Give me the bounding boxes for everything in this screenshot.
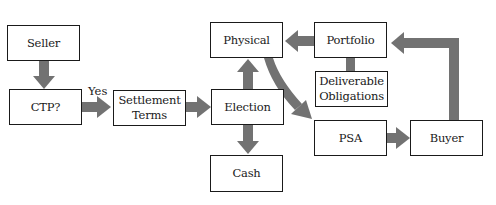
arrow-election-to-physical	[237, 59, 259, 89]
arrow-portfolio-to-physical	[285, 30, 314, 52]
node-seller-label: Seller	[27, 36, 60, 51]
node-buyer-label: Buyer	[430, 131, 464, 146]
flow-diagram: Seller CTP? Yes Settlement Terms Physica…	[0, 0, 496, 205]
edge-label-yes: Yes	[88, 84, 107, 98]
connector-portfolio-deliverable	[346, 58, 355, 71]
node-settlement-terms-label: Settlement Terms	[118, 93, 180, 123]
node-settlement-terms: Settlement Terms	[113, 90, 186, 126]
node-portfolio: Portfolio	[314, 22, 387, 58]
node-cash-label: Cash	[232, 166, 260, 181]
node-physical-label: Physical	[223, 33, 270, 48]
node-ctp: CTP?	[9, 89, 82, 125]
node-portfolio-label: Portfolio	[327, 33, 375, 48]
arrow-seller-to-ctp	[33, 61, 55, 89]
arrow-buyer-to-portfolio	[391, 32, 459, 120]
node-election-label: Election	[224, 100, 270, 115]
node-cash: Cash	[210, 155, 283, 192]
node-buyer: Buyer	[410, 120, 483, 156]
node-psa: PSA	[314, 120, 387, 156]
node-psa-label: PSA	[339, 131, 362, 146]
node-deliverable-obligations: Deliverable Obligations	[315, 71, 388, 107]
node-ctp-label: CTP?	[31, 100, 61, 115]
node-election: Election	[211, 89, 284, 125]
arrow-election-to-cash	[237, 125, 259, 154]
arrow-ctp-to-settlement	[82, 96, 111, 118]
node-physical: Physical	[210, 22, 283, 58]
node-seller: Seller	[7, 25, 80, 61]
arrow-psa-to-buyer	[387, 127, 410, 149]
node-deliverable-obligations-label: Deliverable Obligations	[319, 74, 384, 104]
arrow-settlement-to-election	[186, 96, 211, 118]
